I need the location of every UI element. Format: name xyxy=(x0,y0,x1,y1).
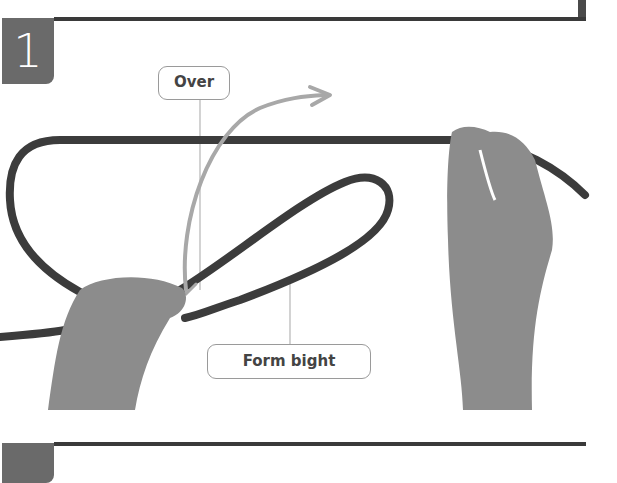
form-bight-label: Form bight xyxy=(207,344,371,379)
over-label: Over xyxy=(158,66,230,100)
rope-bight xyxy=(180,178,389,318)
over-label-text: Over xyxy=(174,73,214,91)
step-2-top-rule xyxy=(54,442,586,446)
over-arrow xyxy=(185,95,325,290)
left-hand xyxy=(48,277,186,410)
right-hand xyxy=(447,127,553,410)
form-bight-label-text: Form bight xyxy=(243,352,336,370)
step-2-badge xyxy=(2,443,54,483)
rope-tail-left xyxy=(0,330,65,337)
